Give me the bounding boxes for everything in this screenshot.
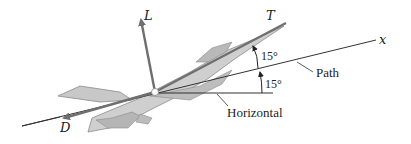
center-of-mass-point: [152, 89, 159, 96]
lift-force-arrow: [141, 20, 155, 92]
thrust-label: T: [266, 8, 276, 23]
angle-arc-thrust-path: [253, 46, 258, 68]
aircraft-force-diagram: x L T D 15° 15° Path Horizontal: [0, 0, 411, 144]
lift-label: L: [143, 8, 153, 23]
path-label: Path: [316, 65, 340, 80]
x-axis-path-line-back: [22, 117, 60, 126]
angle-label-thrust-path: 15°: [261, 49, 278, 63]
x-axis-path-line: [22, 40, 376, 126]
drag-label: D: [59, 120, 71, 135]
path-leader-line: [297, 62, 313, 72]
angle-arc-path-horizontal: [260, 72, 262, 93]
angle-label-path-horizontal: 15°: [265, 77, 282, 91]
horizontal-label: Horizontal: [227, 105, 283, 120]
x-axis-label: x: [379, 32, 387, 47]
aircraft-tail-wing: [58, 86, 132, 102]
